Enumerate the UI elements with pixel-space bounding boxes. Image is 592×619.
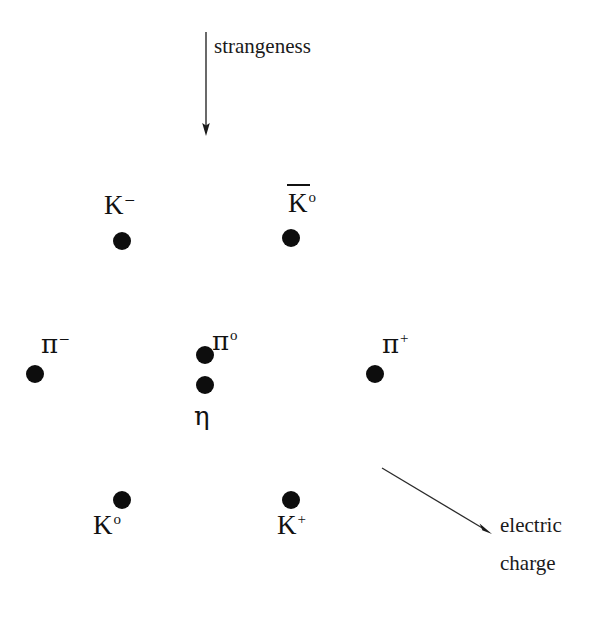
particle-label-eta: η <box>194 403 210 430</box>
particle-base-k-zero-bar: K <box>288 190 308 217</box>
particle-superscript-pi-zero: o <box>230 327 238 343</box>
particle-superscript-k-plus: + <box>298 511 306 527</box>
particle-dot-pi-plus <box>366 365 384 383</box>
particle-label-pi-minus: π– <box>41 331 69 358</box>
particle-dot-k-zero-bar <box>282 229 300 247</box>
particle-superscript-k-zero-bar: o <box>309 189 317 205</box>
electric-charge-axis-arrow <box>374 458 504 548</box>
particle-label-pi-zero: πo <box>212 328 238 355</box>
particle-dot-eta <box>196 376 214 394</box>
strangeness-axis-label: strangeness <box>214 36 311 57</box>
particle-dot-k-plus <box>282 491 300 509</box>
particle-superscript-pi-plus: + <box>400 330 408 346</box>
particle-superscript-pi-minus: – <box>60 328 69 347</box>
particle-dot-pi-minus <box>26 365 44 383</box>
particle-base-eta: η <box>194 401 210 431</box>
particle-base-pi-plus: π <box>382 329 399 359</box>
particle-base-pi-zero: π <box>212 326 229 356</box>
particle-superscript-k-zero: o <box>114 511 122 527</box>
particle-dot-k-minus <box>113 232 131 250</box>
particle-label-k-minus: K– <box>104 192 134 219</box>
particle-dot-k-zero <box>113 491 131 509</box>
particle-label-k-zero-bar: Ko <box>288 190 316 217</box>
meson-octet-diagram: strangeness electric charge K– Ko π– πo … <box>0 0 592 619</box>
electric-charge-axis-label-line1: electric <box>500 515 562 536</box>
particle-base-pi-minus: π <box>41 329 58 359</box>
particle-label-pi-plus: π+ <box>382 331 409 358</box>
particle-base-k-minus: K <box>104 190 124 220</box>
particle-base-k-plus: K <box>277 510 297 540</box>
particle-label-k-plus: K+ <box>277 512 306 539</box>
particle-base-k-zero: K <box>93 510 113 540</box>
particle-superscript-k-minus: – <box>126 189 135 208</box>
particle-label-k-zero: Ko <box>93 512 121 539</box>
electric-charge-axis-label-line2: charge <box>500 553 556 574</box>
